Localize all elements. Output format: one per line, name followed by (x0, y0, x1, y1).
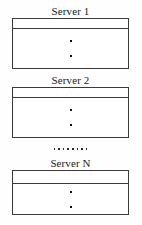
ellipsis-dot (70, 191, 72, 193)
server-box-1 (12, 18, 129, 69)
ellipsis-dot (58, 148, 60, 150)
server-label-n: Server N (12, 157, 129, 170)
server-group-2: Server 2 (12, 74, 129, 138)
server-box-header-2 (13, 88, 128, 98)
ellipsis-dot (70, 206, 72, 208)
server-group-n: Server N (12, 157, 129, 215)
server-box-2 (12, 87, 129, 138)
server-label-2: Server 2 (12, 74, 129, 87)
server-stack-diagram: Server 1 Server 2 (0, 0, 142, 225)
ellipsis-dot (86, 148, 88, 150)
server-box-header-n (13, 171, 128, 184)
horizontal-ellipsis (12, 148, 129, 150)
ellipsis-dot (70, 109, 72, 111)
vertical-ellipsis-1 (13, 29, 128, 68)
server-group-1: Server 1 (12, 5, 129, 69)
vertical-ellipsis-n (13, 184, 128, 214)
ellipsis-dot (70, 124, 72, 126)
ellipsis-dot (54, 148, 56, 150)
ellipsis-dot (67, 148, 69, 150)
ellipsis-dot (63, 148, 65, 150)
server-box-body-2 (13, 98, 128, 137)
ellipsis-dot (81, 148, 83, 150)
ellipsis-dot (70, 40, 72, 42)
ellipsis-dot (70, 55, 72, 57)
server-box-n (12, 170, 129, 215)
server-box-header-1 (13, 19, 128, 29)
vertical-ellipsis-2 (13, 98, 128, 137)
server-label-1: Server 1 (12, 5, 129, 18)
server-box-body-n (13, 184, 128, 214)
server-box-body-1 (13, 29, 128, 68)
ellipsis-dot (77, 148, 79, 150)
ellipsis-dot (72, 148, 74, 150)
